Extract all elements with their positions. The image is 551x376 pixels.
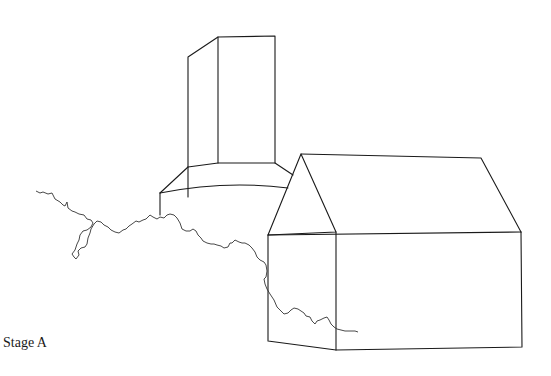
tower-outline [188, 36, 275, 197]
torn-edge-line [36, 191, 358, 332]
stage-label: Stage A [3, 335, 47, 351]
tower-platform [160, 167, 288, 215]
house-gable [268, 154, 336, 235]
tower-base-top [188, 163, 293, 175]
line-drawing [0, 0, 551, 376]
house-roof [301, 154, 521, 232]
house [268, 154, 522, 350]
tower [188, 36, 293, 197]
house-walls [268, 232, 522, 350]
